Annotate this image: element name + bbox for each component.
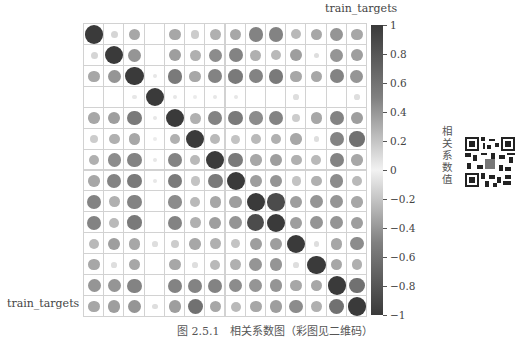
correlation-dot xyxy=(269,69,284,84)
correlation-dot xyxy=(351,112,363,124)
correlation-dot xyxy=(352,259,363,270)
matrix-cell xyxy=(265,149,286,171)
matrix-cell xyxy=(123,295,144,317)
matrix-cell xyxy=(265,253,286,275)
matrix-cell xyxy=(225,86,246,108)
matrix-cell xyxy=(103,107,124,129)
matrix-cell xyxy=(83,23,104,45)
matrix-cell xyxy=(305,232,326,254)
matrix-cell xyxy=(225,295,246,317)
correlation-dot xyxy=(290,49,302,61)
matrix-cell xyxy=(225,107,246,129)
matrix-cell xyxy=(103,295,124,317)
matrix-cell xyxy=(164,232,185,254)
correlation-dot xyxy=(127,195,141,209)
correlation-dot xyxy=(231,239,240,248)
correlation-dot xyxy=(348,297,366,315)
matrix-cell xyxy=(225,274,246,296)
matrix-cell xyxy=(184,107,205,129)
matrix-cell xyxy=(204,44,225,66)
correlation-dot xyxy=(352,176,362,186)
correlation-dot xyxy=(128,49,141,62)
matrix-cell xyxy=(123,128,144,150)
correlation-dot xyxy=(192,262,198,268)
colorbar-tick-label: −0.8 xyxy=(390,281,416,291)
correlation-dot xyxy=(293,262,299,268)
correlation-dot xyxy=(250,50,261,61)
matrix-cell xyxy=(245,190,266,212)
matrix-cell xyxy=(225,190,246,212)
matrix-cell xyxy=(204,86,225,108)
colorbar-tick xyxy=(383,83,387,84)
matrix-cell xyxy=(123,232,144,254)
matrix-cell xyxy=(326,149,347,171)
correlation-dot xyxy=(247,193,265,211)
correlation-dot xyxy=(250,175,262,187)
correlation-dot xyxy=(89,239,99,249)
matrix-cell xyxy=(204,149,225,171)
matrix-cell xyxy=(326,44,347,66)
colorbar-tick-label: 0.4 xyxy=(390,107,407,117)
matrix-cell xyxy=(285,44,306,66)
correlation-dot xyxy=(331,238,343,250)
colorbar-tick-label: 1 xyxy=(390,20,397,30)
correlation-dot xyxy=(271,50,281,60)
correlation-dot xyxy=(230,259,241,270)
matrix-cell xyxy=(285,170,306,192)
matrix-cell xyxy=(225,65,246,87)
matrix-cell xyxy=(305,253,326,275)
matrix-cell xyxy=(164,23,185,45)
correlation-dot xyxy=(250,301,262,313)
matrix-cell xyxy=(164,190,185,212)
correlation-dot xyxy=(229,279,243,293)
correlation-dot xyxy=(270,238,282,250)
matrix-cell xyxy=(225,149,246,171)
correlation-dot xyxy=(146,88,164,106)
correlation-dot xyxy=(349,278,364,293)
correlation-dot xyxy=(209,217,221,229)
correlation-dot xyxy=(351,196,363,208)
matrix-cell xyxy=(204,128,225,150)
matrix-cell xyxy=(144,295,165,317)
matrix-cell xyxy=(123,65,144,87)
matrix-cell xyxy=(144,190,165,212)
matrix-cell xyxy=(305,149,326,171)
correlation-dot xyxy=(87,195,101,209)
matrix-cell xyxy=(83,274,104,296)
matrix-cell xyxy=(123,274,144,296)
matrix-cell xyxy=(245,65,266,87)
matrix-cell xyxy=(245,107,266,129)
matrix-cell xyxy=(326,232,347,254)
correlation-dot xyxy=(307,256,325,274)
correlation-dot xyxy=(108,279,121,292)
matrix-cell xyxy=(305,86,326,108)
matrix-cell xyxy=(265,86,286,108)
correlation-dot xyxy=(351,217,363,229)
colorbar-tick-label: 0.6 xyxy=(390,78,407,88)
matrix-cell xyxy=(184,86,205,108)
correlation-dot xyxy=(89,155,100,166)
matrix-cell xyxy=(285,107,306,129)
matrix-cell xyxy=(123,190,144,212)
colorbar-tick-label: 0.2 xyxy=(390,136,407,146)
correlation-dot xyxy=(330,174,344,188)
matrix-cell xyxy=(83,107,104,129)
matrix-cell xyxy=(225,253,246,275)
colorbar-tick xyxy=(383,199,387,200)
correlation-dot xyxy=(210,196,222,208)
matrix-cell xyxy=(103,128,124,150)
y-axis-label: train_targets xyxy=(7,297,79,310)
matrix-cell xyxy=(285,190,306,212)
matrix-cell xyxy=(144,149,165,171)
matrix-cell xyxy=(346,107,367,129)
matrix-cell xyxy=(103,170,124,192)
matrix-cell xyxy=(204,23,225,45)
qr-code-icon xyxy=(465,137,515,187)
correlation-dot xyxy=(234,95,238,99)
correlation-dot xyxy=(269,27,283,41)
correlation-grid xyxy=(83,23,366,316)
correlation-dot xyxy=(107,174,121,188)
matrix-cell xyxy=(83,211,104,233)
correlation-dot xyxy=(330,153,344,167)
matrix-cell xyxy=(326,86,347,108)
